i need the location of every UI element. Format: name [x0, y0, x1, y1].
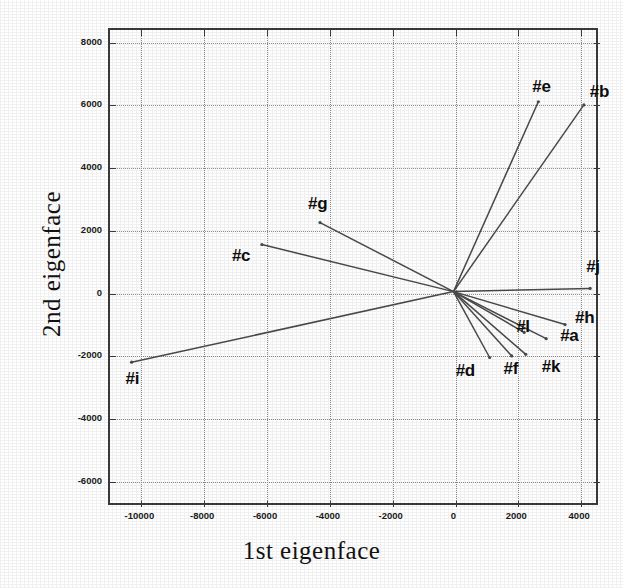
point-label-e: #e	[532, 77, 550, 97]
y-tick-label: 2000	[60, 223, 102, 234]
x-tick-label: -4000	[316, 510, 340, 521]
vector-endpoint	[510, 354, 513, 357]
y-tick-label: 0	[60, 286, 102, 297]
vector-j	[454, 288, 591, 291]
vector-endpoint	[488, 356, 491, 359]
point-label-f: #f	[504, 359, 519, 379]
x-tick-label: 2000	[506, 510, 527, 521]
vector-endpoint	[545, 337, 548, 340]
y-tick-label: -4000	[60, 412, 102, 423]
x-tick-label: -10000	[125, 510, 155, 521]
y-tick-label: -6000	[60, 474, 102, 485]
vector-endpoint	[537, 100, 540, 103]
eigenface-scatter-plot: 2nd eigenface 1st eigenface -10000-8000-…	[0, 0, 623, 588]
vector-f	[454, 292, 512, 356]
vector-b	[454, 105, 584, 292]
x-tick-label: -6000	[253, 510, 277, 521]
vector-endpoint	[524, 353, 527, 356]
vector-endpoint	[130, 361, 133, 364]
point-label-k: #k	[542, 357, 560, 377]
vector-e	[454, 102, 539, 292]
point-label-d: #d	[456, 361, 475, 381]
y-tick-label: 4000	[60, 161, 102, 172]
vector-c	[262, 245, 454, 292]
x-tick-label: 0	[451, 510, 456, 521]
point-label-g: #g	[308, 194, 327, 214]
point-label-a: #a	[560, 326, 578, 346]
y-tick-label: -2000	[60, 349, 102, 360]
x-axis-title: 1st eigenface	[0, 537, 623, 565]
vector-endpoint	[318, 221, 321, 224]
x-tick-label: 4000	[569, 510, 590, 521]
x-tick-label: -2000	[379, 510, 403, 521]
y-axis-title: 2nd eigenface	[38, 114, 66, 414]
point-label-c: #c	[232, 246, 250, 266]
y-tick-label: 8000	[60, 35, 102, 46]
vector-layer	[108, 28, 598, 505]
point-label-j: #j	[586, 257, 600, 277]
vector-i	[132, 292, 454, 363]
vector-endpoint	[589, 287, 592, 290]
vector-endpoint	[260, 243, 263, 246]
point-label-h: #h	[575, 308, 594, 328]
point-label-i: #i	[126, 369, 140, 389]
point-label-l: #l	[516, 317, 530, 337]
point-label-b: #b	[590, 82, 609, 102]
vector-endpoint	[582, 103, 585, 106]
x-tick-label: -8000	[190, 510, 214, 521]
vector-g	[320, 223, 453, 292]
y-tick-label: 6000	[60, 98, 102, 109]
